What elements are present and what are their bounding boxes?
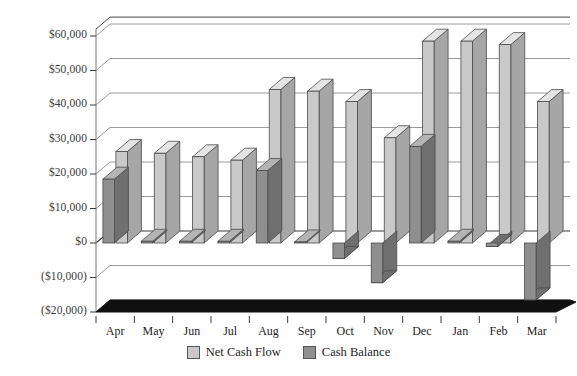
bar-net-cash-flow-May: [154, 141, 180, 243]
x-axis-tick-label-aug: Aug: [249, 324, 287, 339]
bar-cash-balance-Apr: [103, 167, 129, 243]
bar-net-cash-flow-Feb: [499, 33, 525, 243]
bar-net-cash-flow-Sep: [308, 79, 334, 243]
y-axis-tick-label: ($20,000): [41, 304, 87, 316]
x-axis-floor: [96, 300, 576, 312]
x-axis-tick-label-jun: Jun: [173, 324, 211, 339]
bar-net-cash-flow-Mar: [538, 90, 564, 243]
y-axis-tick-label: $10,000: [49, 201, 87, 213]
x-axis-tick-label-apr: Apr: [96, 324, 134, 339]
legend-swatch-icon: [187, 346, 200, 359]
y-axis-tick-label: $60,000: [49, 28, 87, 40]
y-axis-tick-label: $40,000: [49, 97, 87, 109]
legend-item-cash-balance[interactable]: Cash Balance: [303, 345, 390, 360]
x-axis-tick-label-may: May: [134, 324, 172, 339]
x-axis-tick-label-jul: Jul: [211, 324, 249, 339]
legend-swatch-icon: [303, 346, 316, 359]
bar-cash-balance-Dec: [410, 134, 436, 243]
chart-plot-area: [0, 0, 577, 376]
y-axis-tick-label: ($10,000): [41, 270, 87, 282]
y-axis-tick-label: $50,000: [49, 63, 87, 75]
x-axis-tick-label-mar: Mar: [518, 324, 556, 339]
x-axis-tick-label-jan: Jan: [441, 324, 479, 339]
cash-flow-chart: $60,000$50,000$40,000$30,000$20,000$10,0…: [0, 0, 577, 376]
bar-net-cash-flow-Nov: [384, 126, 410, 243]
x-axis-tick-label-dec: Dec: [403, 324, 441, 339]
bar-cash-balance-Aug: [256, 159, 282, 243]
bar-net-cash-flow-Jan: [461, 29, 487, 243]
x-axis-tick-label-sep: Sep: [288, 324, 326, 339]
legend-label: Net Cash Flow: [206, 345, 281, 360]
x-axis-tick-label-feb: Feb: [479, 324, 517, 339]
y-axis-tick-label: $30,000: [49, 132, 87, 144]
x-axis-tick-label-nov: Nov: [364, 324, 402, 339]
x-axis-tick-label-oct: Oct: [326, 324, 364, 339]
legend-label: Cash Balance: [322, 345, 390, 360]
y-axis-tick-label: $0: [75, 235, 87, 247]
legend-item-net-cash-flow[interactable]: Net Cash Flow: [187, 345, 281, 360]
bar-net-cash-flow-Oct: [346, 90, 372, 243]
chart-legend: Net Cash FlowCash Balance: [0, 345, 577, 360]
y-axis-tick-label: $20,000: [49, 166, 87, 178]
bar-net-cash-flow-Jun: [193, 145, 219, 243]
